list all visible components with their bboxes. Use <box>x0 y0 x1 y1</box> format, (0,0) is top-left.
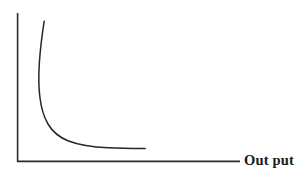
x-axis-label: Out put <box>244 153 294 168</box>
chart-figure: Out put <box>0 0 307 178</box>
average-cost-curve <box>39 21 145 148</box>
